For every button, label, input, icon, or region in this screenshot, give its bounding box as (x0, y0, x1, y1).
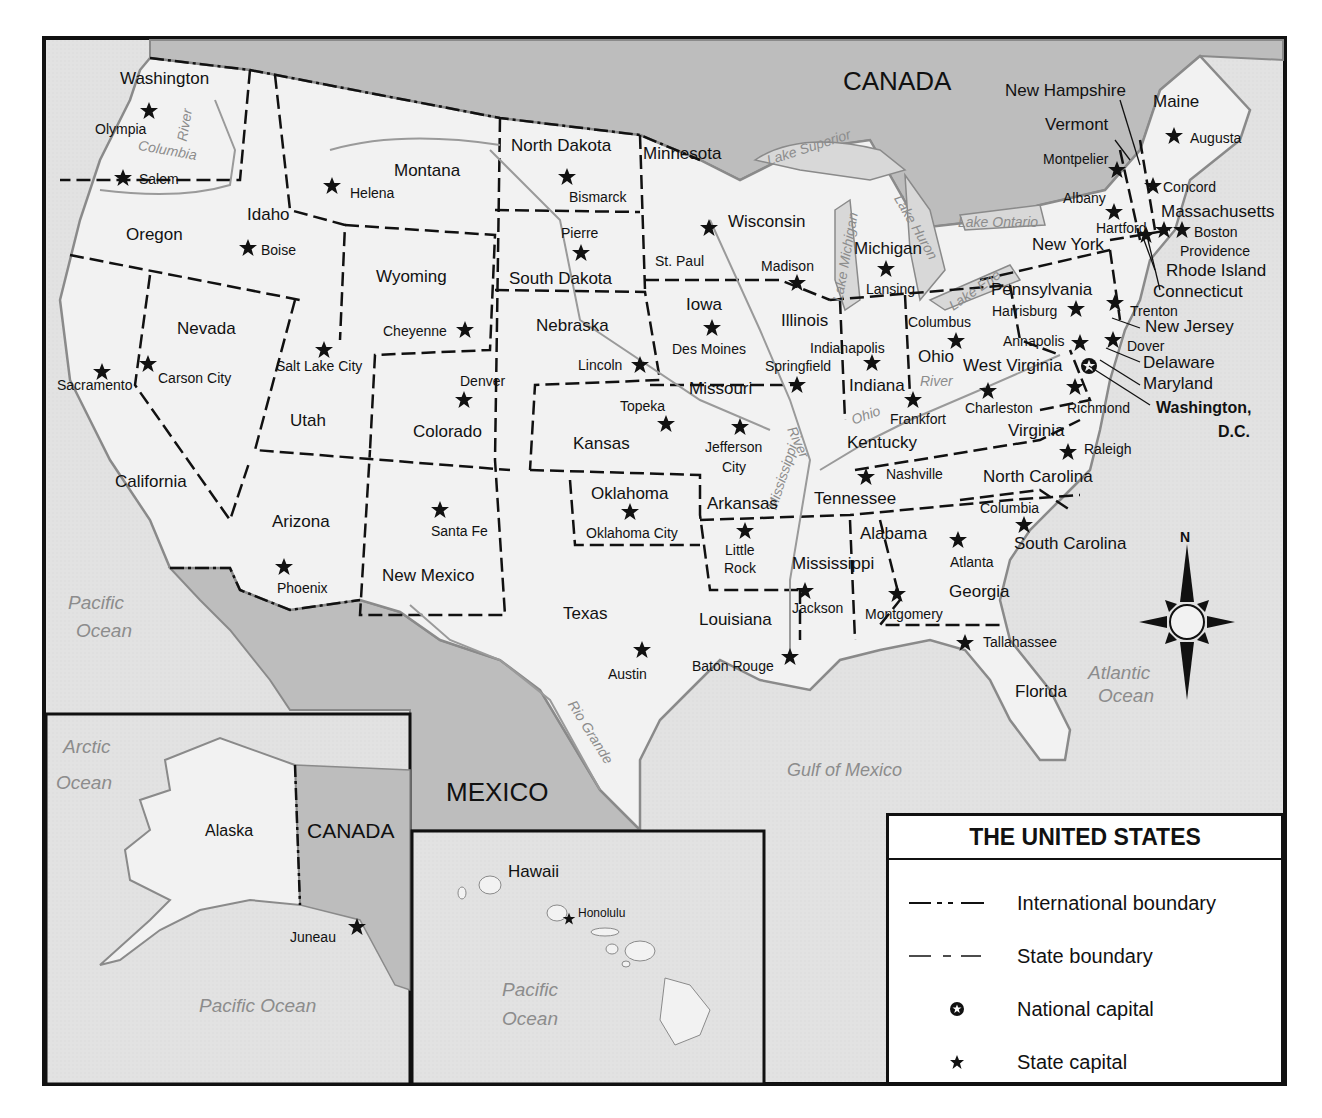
capital-providence[interactable]: Providence (1180, 244, 1250, 258)
capital-austin[interactable]: Austin (608, 667, 647, 681)
state-minnesota[interactable]: Minnesota (643, 145, 721, 162)
capital-charleston[interactable]: Charleston (965, 401, 1033, 415)
state-nevada[interactable]: Nevada (177, 320, 236, 337)
capital-lansing[interactable]: Lansing (866, 282, 915, 296)
state-texas[interactable]: Texas (563, 605, 607, 622)
state-arkansas[interactable]: Arkansas (707, 495, 778, 512)
capital-baton-rouge[interactable]: Baton Rouge (692, 659, 774, 673)
capital-montgomery[interactable]: Montgomery (865, 607, 943, 621)
capital-st-paul[interactable]: St. Paul (655, 254, 704, 268)
state-alabama[interactable]: Alabama (860, 525, 927, 542)
capital-jackson[interactable]: Jackson (792, 601, 843, 615)
state-new-hampshire[interactable]: New Hampshire (1005, 82, 1126, 99)
state-washington[interactable]: Washington (120, 70, 209, 87)
capital-sacramento[interactable]: Sacramento (57, 378, 132, 392)
state-south-dakota[interactable]: South Dakota (509, 270, 612, 287)
national-capital-label-2[interactable]: D.C. (1218, 424, 1250, 440)
capital-pierre[interactable]: Pierre (561, 226, 598, 240)
capital-des-moines[interactable]: Des Moines (672, 342, 746, 356)
state-california[interactable]: California (115, 473, 187, 490)
state-ohio[interactable]: Ohio (918, 348, 954, 365)
state-georgia[interactable]: Georgia (949, 583, 1009, 600)
capital-columbus-oh[interactable]: Columbus (908, 315, 971, 329)
state-louisiana[interactable]: Louisiana (699, 611, 772, 628)
capital-nashville[interactable]: Nashville (886, 467, 943, 481)
state-vermont[interactable]: Vermont (1045, 116, 1108, 133)
state-arizona[interactable]: Arizona (272, 513, 330, 530)
state-new-mexico[interactable]: New Mexico (382, 567, 475, 584)
state-kentucky[interactable]: Kentucky (847, 434, 917, 451)
capital-atlanta[interactable]: Atlanta (950, 555, 994, 569)
capital-raleigh[interactable]: Raleigh (1084, 442, 1131, 456)
capital-tallahassee[interactable]: Tallahassee (983, 635, 1057, 649)
capital-santa-fe[interactable]: Santa Fe (431, 524, 488, 538)
state-utah[interactable]: Utah (290, 412, 326, 429)
state-mississippi[interactable]: Mississippi (792, 555, 874, 572)
capital-boston[interactable]: Boston (1194, 225, 1238, 239)
state-connecticut[interactable]: Connecticut (1153, 283, 1243, 300)
capital-cheyenne[interactable]: Cheyenne (383, 324, 447, 338)
state-delaware[interactable]: Delaware (1143, 354, 1215, 371)
capital-phoenix[interactable]: Phoenix (277, 581, 328, 595)
capital-augusta[interactable]: Augusta (1190, 131, 1241, 145)
capital-little-rock[interactable]: Little (725, 543, 755, 557)
capital-oklahoma-city[interactable]: Oklahoma City (586, 526, 678, 540)
state-north-carolina[interactable]: North Carolina (983, 468, 1093, 485)
capital-olympia[interactable]: Olympia (95, 122, 146, 136)
state-missouri[interactable]: Missouri (689, 380, 752, 397)
capital-columbia-sc[interactable]: Columbia (980, 501, 1039, 515)
capital-springfield[interactable]: Springfield (765, 359, 831, 373)
capital-denver[interactable]: Denver (460, 374, 505, 388)
state-indiana[interactable]: Indiana (849, 377, 905, 394)
capital-boise[interactable]: Boise (261, 243, 296, 257)
state-iowa[interactable]: Iowa (686, 296, 722, 313)
state-montana[interactable]: Montana (394, 162, 460, 179)
state-alaska[interactable]: Alaska (205, 823, 253, 839)
capital-lincoln[interactable]: Lincoln (578, 358, 622, 372)
state-michigan[interactable]: Michigan (854, 240, 922, 257)
state-rhode-island[interactable]: Rhode Island (1166, 262, 1266, 279)
national-capital-label[interactable]: Washington, (1156, 400, 1251, 416)
state-virginia[interactable]: Virginia (1008, 422, 1064, 439)
state-maine[interactable]: Maine (1153, 93, 1199, 110)
capital-indianapolis[interactable]: Indianapolis (810, 341, 885, 355)
capital-dover[interactable]: Dover (1127, 339, 1164, 353)
capital-salem[interactable]: Salem (139, 172, 179, 186)
capital-madison[interactable]: Madison (761, 259, 814, 273)
state-hawaii[interactable]: Hawaii (508, 863, 559, 880)
capital-jefferson-city[interactable]: Jefferson (705, 440, 762, 454)
capital-hartford[interactable]: Hartford (1096, 221, 1147, 235)
state-idaho[interactable]: Idaho (247, 206, 290, 223)
capital-juneau[interactable]: Juneau (290, 930, 336, 944)
state-nebraska[interactable]: Nebraska (536, 317, 609, 334)
state-colorado[interactable]: Colorado (413, 423, 482, 440)
state-wyoming[interactable]: Wyoming (376, 268, 447, 285)
state-tennessee[interactable]: Tennessee (814, 490, 896, 507)
capital-frankfort[interactable]: Frankfort (890, 412, 946, 426)
capital-trenton[interactable]: Trenton (1130, 304, 1178, 318)
state-maryland[interactable]: Maryland (1143, 375, 1213, 392)
state-florida[interactable]: Florida (1015, 683, 1067, 700)
state-new-york[interactable]: New York (1032, 236, 1104, 253)
state-north-dakota[interactable]: North Dakota (511, 137, 611, 154)
capital-salt-lake-city[interactable]: Salt Lake City (276, 359, 362, 373)
capital-helena[interactable]: Helena (350, 186, 394, 200)
capital-topeka[interactable]: Topeka (620, 399, 665, 413)
state-west-virginia[interactable]: West Virginia (963, 357, 1063, 374)
capital-jefferson-city-2[interactable]: City (722, 460, 746, 474)
state-kansas[interactable]: Kansas (573, 435, 630, 452)
state-pennsylvania[interactable]: Pennsylvania (991, 281, 1092, 298)
capital-montpelier[interactable]: Montpelier (1043, 152, 1108, 166)
capital-albany[interactable]: Albany (1063, 191, 1106, 205)
capital-annapolis[interactable]: Annapolis (1003, 334, 1065, 348)
state-south-carolina[interactable]: South Carolina (1014, 535, 1126, 552)
capital-little-rock-2[interactable]: Rock (724, 561, 756, 575)
capital-concord[interactable]: Concord (1163, 180, 1216, 194)
capital-carson-city[interactable]: Carson City (158, 371, 231, 385)
capital-bismarck[interactable]: Bismarck (569, 190, 627, 204)
capital-honolulu[interactable]: Honolulu (578, 907, 625, 919)
state-wisconsin[interactable]: Wisconsin (728, 213, 805, 230)
capital-richmond[interactable]: Richmond (1067, 401, 1130, 415)
capital-harrisburg[interactable]: Harrisburg (992, 304, 1057, 318)
state-massachusetts[interactable]: Massachusetts (1161, 203, 1274, 220)
